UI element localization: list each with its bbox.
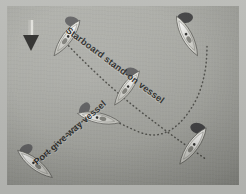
photo-vignette <box>7 6 239 185</box>
diagram-stage: Starboard stand-on vessel Port give-way … <box>0 0 246 194</box>
diagram-photo: Starboard stand-on vessel Port give-way … <box>7 6 239 185</box>
